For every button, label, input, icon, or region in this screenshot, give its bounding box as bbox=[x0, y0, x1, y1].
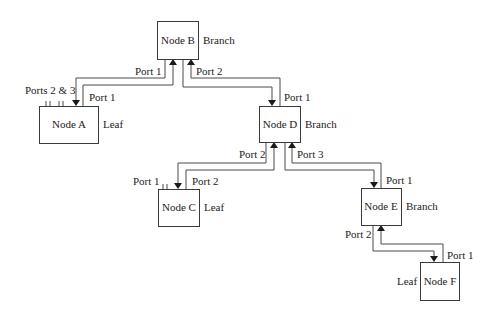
node-d-label: Node D bbox=[263, 118, 298, 130]
arrow-down-icon bbox=[370, 182, 378, 188]
node-c-role: Leaf bbox=[204, 201, 224, 213]
port-label-c-port2: Port 2 bbox=[192, 175, 219, 187]
node-c-unused-ports bbox=[163, 184, 167, 189]
port-label-b-port1: Port 1 bbox=[135, 65, 162, 77]
port-label-e-port1: Port 1 bbox=[386, 174, 413, 186]
node-f[interactable]: Node F Leaf bbox=[397, 263, 460, 301]
arrow-down-icon bbox=[72, 100, 80, 106]
node-a[interactable]: Node A Leaf bbox=[40, 107, 124, 144]
node-a-role: Leaf bbox=[103, 118, 123, 130]
node-b[interactable]: Node B Branch bbox=[158, 22, 236, 60]
node-a-unused-ports bbox=[46, 101, 63, 106]
port-label-d-port2: Port 2 bbox=[239, 148, 266, 160]
link-e-f bbox=[373, 225, 443, 262]
port-label-f-port1: Port 1 bbox=[447, 249, 474, 261]
arrow-down-icon bbox=[174, 183, 182, 189]
port-label-a-port1: Port 1 bbox=[89, 91, 116, 103]
node-d[interactable]: Node D Branch bbox=[260, 107, 338, 143]
node-c-label: Node C bbox=[162, 201, 196, 213]
port-label-c-port1: Port 1 bbox=[133, 175, 160, 187]
node-b-label: Node B bbox=[161, 34, 195, 46]
port-label-a-ports23: Ports 2 & 3 bbox=[25, 84, 76, 96]
node-f-role: Leaf bbox=[397, 275, 417, 287]
port-label-e-port2: Port 2 bbox=[345, 228, 372, 240]
node-f-label: Node F bbox=[424, 275, 457, 287]
node-d-role: Branch bbox=[305, 118, 337, 130]
port-label-d-port1: Port 1 bbox=[284, 91, 311, 103]
port-label-d-port3: Port 3 bbox=[297, 148, 324, 160]
node-b-role: Branch bbox=[203, 34, 235, 46]
node-c[interactable]: Node C Leaf bbox=[159, 190, 225, 227]
arrow-down-icon bbox=[430, 256, 438, 262]
node-e-role: Branch bbox=[406, 200, 438, 212]
node-e[interactable]: Node E Branch bbox=[362, 189, 439, 226]
network-topology-diagram: Node B Branch Node A Leaf Node D Branch … bbox=[0, 0, 501, 317]
node-e-label: Node E bbox=[364, 200, 398, 212]
node-a-label: Node A bbox=[52, 118, 86, 130]
arrow-down-icon bbox=[268, 100, 276, 106]
port-label-b-port2: Port 2 bbox=[196, 65, 223, 77]
